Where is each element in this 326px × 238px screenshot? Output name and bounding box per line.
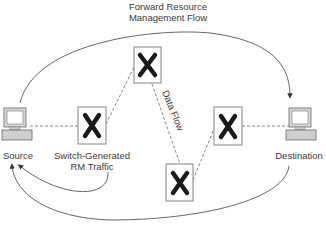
switch-bottom <box>166 164 193 201</box>
switch-caption-line-1: Switch-Generated <box>52 150 132 161</box>
title-line-2: Management Flow <box>118 12 218 23</box>
source-computer-icon <box>2 108 32 140</box>
switch-right <box>214 107 242 145</box>
diagram-canvas: Data Flow Forward Resource Management Fl… <box>0 0 326 238</box>
source-label: Source <box>0 150 36 161</box>
destination-computer-icon <box>286 108 316 140</box>
data-flow-label: Data Flow <box>160 89 186 133</box>
backward-rm-flow-arrow <box>12 166 289 220</box>
destination-label: Destination <box>272 150 326 161</box>
switch-left <box>78 107 106 144</box>
switch-caption-line-2: RM Traffic <box>52 161 132 172</box>
title-line-1: Forward Resource <box>118 1 218 12</box>
connections-layer: Data Flow <box>0 0 326 238</box>
switch-top <box>134 47 161 83</box>
